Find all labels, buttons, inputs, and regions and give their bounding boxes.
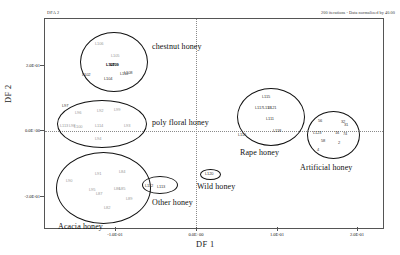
point-label: L94 — [95, 136, 101, 141]
group-caption-polyfloral: poly floral honey — [152, 118, 209, 127]
point-label: L104 — [104, 76, 113, 81]
x-tick-1: 0.0E+00 — [176, 232, 216, 237]
point-label: 2 — [338, 140, 340, 145]
group-caption-chestnut: chestnut honey — [152, 42, 202, 51]
group-caption-rape: Rape honey — [240, 148, 279, 157]
point-label: L116 — [238, 132, 246, 137]
point-label: L123 — [313, 130, 322, 135]
point-label: L91 — [95, 171, 101, 176]
point-label: L89 — [126, 196, 132, 201]
group-caption-acacia: Acacia honey — [58, 222, 103, 231]
y-tick-0: 2.0E-01 — [6, 63, 40, 68]
y-tick-2: -2.0E-01 — [6, 194, 40, 199]
point-label: L97 — [62, 103, 68, 108]
point-label: L114 — [95, 123, 103, 128]
point-label: L84 — [119, 169, 125, 174]
point-label: L92 — [97, 108, 103, 113]
point-label: L99 — [114, 107, 120, 112]
x-tick-2: 1.0E-01 — [257, 232, 297, 237]
point-label: L95 — [89, 187, 95, 192]
point-label: L96 — [75, 110, 81, 115]
point-label: L121 — [268, 105, 277, 110]
point-label: L111 — [266, 116, 274, 121]
point-label: L85 — [119, 186, 125, 191]
x-tick-3: 2.0E-01 — [337, 232, 377, 237]
group-caption-other: Other honey — [152, 198, 193, 207]
point-label: 16 — [335, 130, 339, 135]
point-label: L90 — [66, 178, 72, 183]
point-label: 74 — [343, 131, 347, 136]
point-label: L117 — [255, 105, 263, 110]
iterations-annotation: 200 iterations - Data normalized by 40.0… — [321, 10, 395, 15]
point-label: L100 — [74, 124, 83, 129]
point-label: 31 — [344, 122, 348, 127]
point-label: L102 — [82, 72, 91, 77]
dfa-scatter-plot: DFA 2 200 iterations - Data normalized b… — [0, 0, 400, 255]
group-caption-wild: Wild honey — [197, 182, 235, 191]
point-label: L115 — [262, 94, 270, 99]
y-tick-1: 0.0E+00 — [6, 128, 40, 133]
point-label: L106 — [95, 41, 104, 46]
x-tick-0: -1.0E-01 — [95, 232, 135, 237]
point-label: L105 — [111, 53, 120, 58]
point-label: 4 — [317, 147, 319, 152]
point-label: 56 — [318, 118, 322, 123]
point-label: L120 — [205, 171, 214, 176]
point-label: L113 — [157, 184, 165, 189]
cluster-ellipse-acacia — [56, 152, 151, 224]
point-label: L118 — [273, 128, 281, 133]
point-label: L87 — [96, 191, 102, 196]
point-label: L109 — [110, 62, 119, 67]
point-label: L108 — [124, 70, 133, 75]
cluster-ellipse-artificial — [307, 111, 360, 159]
dfa-corner-label: DFA 2 — [47, 10, 60, 15]
group-caption-artificial: Artificial honey — [300, 163, 352, 172]
point-label: L93 — [124, 123, 130, 128]
y-axis-title: DF 2 — [4, 84, 13, 103]
point-label: L112 — [145, 183, 153, 188]
point-label: L82 — [104, 205, 110, 210]
x-axis-title: DF 1 — [196, 240, 215, 249]
point-label: L113 — [60, 123, 68, 128]
point-label: 58 — [321, 138, 325, 143]
